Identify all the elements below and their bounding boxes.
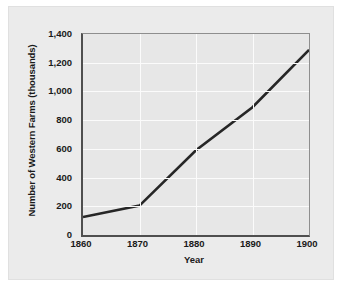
x-tick-label: 1900: [296, 238, 317, 249]
x-tick-label: 1860: [70, 238, 91, 249]
y-tick-label: 800: [56, 114, 72, 125]
plot-area: [81, 33, 310, 237]
y-tick-label: 1,200: [48, 56, 72, 67]
vertical-gridline: [140, 34, 141, 235]
chart-figure: Number of Western Farms (thousands) 0200…: [0, 0, 342, 287]
x-axis-tick-labels: 18601870188018901900: [81, 238, 307, 254]
vertical-gridline: [253, 34, 254, 235]
vertical-gridline: [196, 34, 197, 235]
y-tick-label: 600: [56, 142, 72, 153]
y-tick-label: 1,000: [48, 85, 72, 96]
y-tick-label: 1,400: [48, 28, 72, 39]
y-tick-label: 400: [56, 171, 72, 182]
x-tick-label: 1870: [127, 238, 148, 249]
y-tick-label: 200: [56, 200, 72, 211]
plot-inner: [83, 34, 309, 235]
y-axis-tick-labels: 02004006008001,0001,2001,400: [24, 33, 76, 234]
x-axis-title: Year: [81, 254, 307, 265]
x-tick-label: 1880: [183, 238, 204, 249]
x-tick-label: 1890: [240, 238, 261, 249]
